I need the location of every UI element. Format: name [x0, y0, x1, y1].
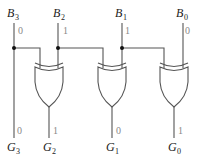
svg-text:2: 2	[52, 147, 56, 156]
input-value-b1: 1	[125, 25, 130, 36]
svg-text:B: B	[115, 6, 123, 20]
circuit-diagram: B 3 B 2 B 1 B 0 0 1 1 0	[0, 0, 202, 157]
xor-gate-g0	[160, 63, 188, 138]
input-label-b1: B 1	[115, 6, 127, 22]
svg-text:3: 3	[15, 13, 19, 22]
svg-text:2: 2	[61, 13, 65, 22]
svg-text:G: G	[43, 140, 52, 154]
junction-b3	[12, 46, 16, 50]
output-value-g0: 1	[178, 125, 183, 136]
input-value-b3: 0	[18, 25, 23, 36]
svg-text:B: B	[7, 6, 15, 20]
xor-gate-g1	[98, 63, 126, 138]
junction-b1	[120, 46, 124, 50]
input-label-b3: B 3	[7, 6, 19, 22]
output-label-g0: G 0	[168, 140, 181, 156]
svg-text:B: B	[176, 6, 184, 20]
output-label-g1: G 1	[106, 140, 119, 156]
input-label-b0: B 0	[176, 6, 188, 22]
svg-text:3: 3	[16, 147, 20, 156]
svg-text:G: G	[106, 140, 115, 154]
input-label-b2: B 2	[53, 6, 65, 22]
wire-b1-to-xor-g0	[122, 48, 164, 68]
svg-text:G: G	[7, 140, 16, 154]
svg-text:B: B	[53, 6, 61, 20]
output-label-g2: G 2	[43, 140, 56, 156]
svg-text:G: G	[168, 140, 177, 154]
xor-gate-g2	[35, 63, 63, 138]
svg-text:0: 0	[184, 13, 188, 22]
output-value-g1: 0	[116, 125, 121, 136]
output-value-g2: 1	[53, 125, 58, 136]
junction-b2	[56, 46, 60, 50]
output-value-g3: 0	[17, 125, 22, 136]
wire-b2-to-xor-g1	[58, 48, 103, 68]
svg-text:0: 0	[177, 147, 181, 156]
input-value-b2: 1	[63, 25, 68, 36]
svg-text:1: 1	[115, 147, 119, 156]
svg-text:1: 1	[123, 13, 127, 22]
input-value-b0: 0	[185, 25, 190, 36]
output-label-g3: G 3	[7, 140, 20, 156]
wire-b3-to-xor-g2	[14, 48, 40, 68]
